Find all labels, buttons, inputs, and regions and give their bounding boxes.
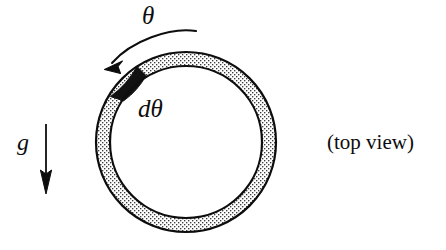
- top-view-caption: (top view): [327, 132, 414, 153]
- gravity-label: g: [17, 130, 29, 154]
- diagram-canvas: [0, 0, 446, 250]
- d-theta-label: dθ: [138, 96, 163, 121]
- theta-label: θ: [142, 3, 154, 28]
- ring-fill: [0, 0, 446, 250]
- physics-diagram-figure: θ dθ g (top view): [0, 0, 446, 250]
